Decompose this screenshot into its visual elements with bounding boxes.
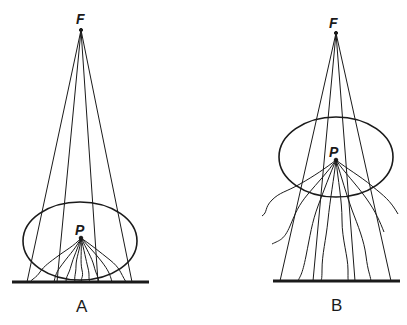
point-label-a: P <box>75 222 85 238</box>
point-label-b: P <box>329 144 339 160</box>
scatter-rays-a <box>30 238 126 282</box>
focus-point-b <box>334 31 337 34</box>
primary-beam-lines-a <box>27 30 132 282</box>
panel-caption-b: B <box>331 296 342 315</box>
panel-a <box>12 28 149 282</box>
focus-label-b: F <box>329 15 338 31</box>
focus-point-a <box>79 28 82 31</box>
focus-label-a: F <box>76 11 85 27</box>
panel-caption-a: A <box>76 297 88 316</box>
diagram-canvas: F P A F P B <box>0 0 407 325</box>
